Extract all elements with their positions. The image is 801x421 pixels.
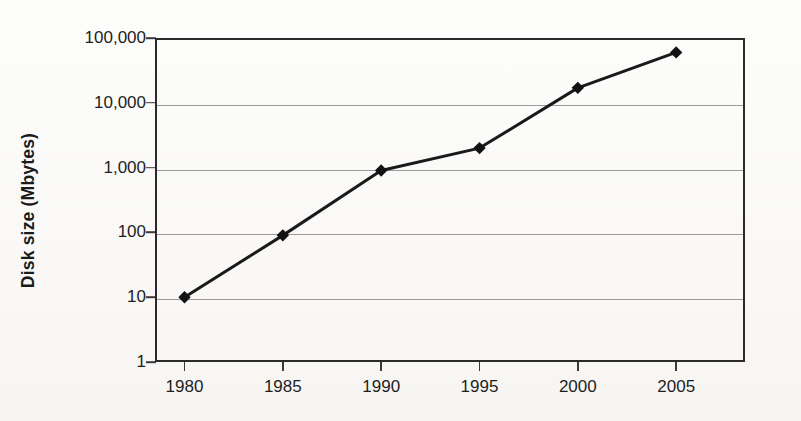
x-tick-mark-1980 (184, 362, 186, 371)
y-tick-label-100000: 100,000 (6, 28, 146, 48)
gridline-10 (157, 299, 743, 300)
x-tick-mark-1985 (282, 362, 284, 371)
y-tick-label-10000: 10,000 (6, 93, 146, 113)
y-tick-label-1: 1 (6, 352, 146, 372)
plot-area (155, 38, 745, 362)
y-tick-label-10: 10 (6, 287, 146, 307)
y-tick-label-1000: 1,000 (6, 158, 146, 178)
y-axis-tick-labels: 100,00010,0001,000100101 (0, 0, 146, 421)
gridline-10000 (157, 105, 743, 106)
x-tick-mark-1990 (380, 362, 382, 371)
x-tick-mark-2000 (577, 362, 579, 371)
gridline-100 (157, 234, 743, 235)
x-tick-mark-2005 (675, 362, 677, 371)
chart-figure: Disk size (Mbytes) 100,00010,0001,000100… (0, 0, 801, 421)
y-tick-label-100: 100 (6, 222, 146, 242)
x-tick-label-2005: 2005 (616, 377, 736, 397)
x-tick-mark-1995 (479, 362, 481, 371)
gridline-1000 (157, 170, 743, 171)
